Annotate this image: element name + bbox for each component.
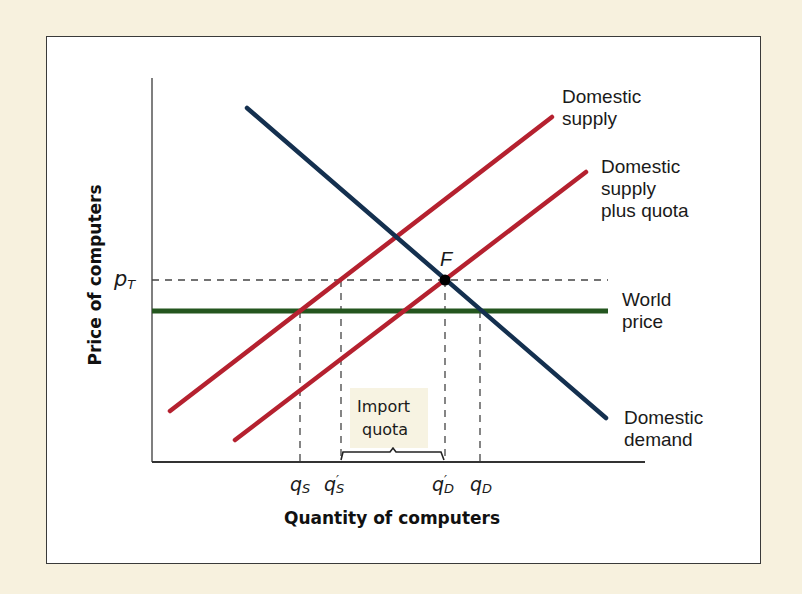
supply-demand-chart: Import quota F Domestic supply Domestic … <box>0 0 802 594</box>
import-quota-label-line1: Import <box>357 397 410 416</box>
pT-label: pT <box>113 267 136 292</box>
supply-plus-quota-label-line1: Domestic <box>601 156 680 177</box>
domestic-demand-label-line1: Domestic <box>624 407 703 428</box>
domestic-supply-label-line2: supply <box>562 108 617 129</box>
qS-prime-sub: S <box>336 481 344 496</box>
qD-prime-label: q′D <box>432 472 454 496</box>
domestic-supply-label-line1: Domestic <box>562 86 641 107</box>
qD-label: qD <box>470 473 492 496</box>
qS-prime-label: q′S <box>324 472 344 496</box>
qD-base: q <box>470 473 482 495</box>
import-quota-label-line2: quota <box>362 420 408 439</box>
point-F-marker <box>440 275 451 286</box>
world-price-label-line1: World <box>622 289 671 310</box>
x-axis-title: Quantity of computers <box>284 508 500 528</box>
pT-base: p <box>113 267 127 291</box>
qS-sub: S <box>302 481 310 496</box>
point-F-label: F <box>440 248 454 270</box>
domestic-demand-label-line2: demand <box>624 429 693 450</box>
qS-base: q <box>290 473 302 495</box>
domestic-demand-line <box>247 108 606 418</box>
world-price-label-line2: price <box>622 311 663 332</box>
qD-prime-base: q <box>432 473 444 495</box>
qD-prime-sub: D <box>444 481 454 496</box>
y-axis-title: Price of computers <box>85 184 105 365</box>
pT-sub: T <box>127 277 136 292</box>
supply-plus-quota-label-line2: supply <box>601 178 656 199</box>
qS-label: qS <box>290 473 310 496</box>
supply-plus-quota-label-line3: plus quota <box>601 200 689 221</box>
import-quota-brace <box>341 448 444 460</box>
domestic-supply-line <box>170 117 552 411</box>
qS-prime-base: q <box>324 473 336 495</box>
qD-sub: D <box>482 481 492 496</box>
